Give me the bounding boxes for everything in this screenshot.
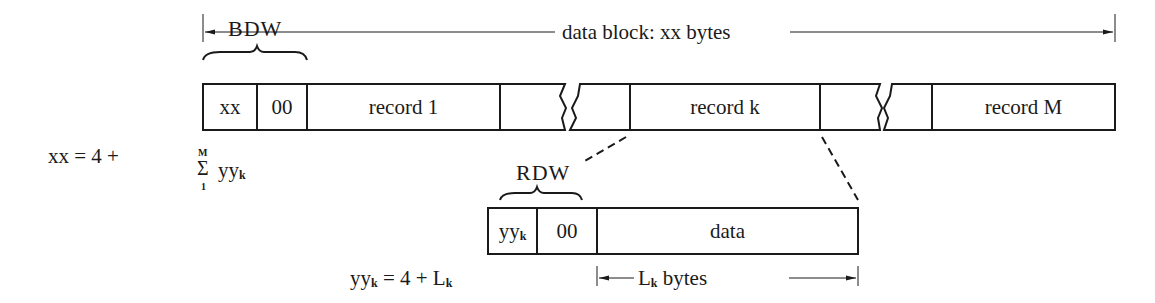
record-00-cell: 00	[537, 221, 597, 242]
block-length-formula-lhs: xx = 4 +	[48, 146, 119, 167]
lk-subscript: k	[651, 276, 658, 290]
record-formula-rhs-subscript: k	[446, 276, 453, 290]
record-k-cell: record k	[630, 97, 820, 118]
diagram-lines	[0, 0, 1155, 303]
record-1-cell: record 1	[307, 97, 500, 118]
record-formula-lhs: yy	[350, 266, 371, 290]
record-formula-mid: = 4 + L	[378, 266, 446, 290]
block-00-cell: 00	[257, 97, 307, 118]
sum-sigma: Σ	[197, 158, 209, 178]
record-yy-cell: yyk	[488, 221, 537, 242]
rdw-label: RDW	[516, 162, 570, 184]
record-data-dimension-label: Lk bytes	[638, 268, 707, 289]
record-data-cell: data	[597, 221, 858, 242]
record-length-formula: yyk = 4 + Lk	[350, 268, 452, 289]
sum-term: yyk	[218, 160, 246, 181]
lk-suffix: bytes	[658, 266, 708, 290]
lk-base: L	[638, 266, 651, 290]
record-m-cell: record M	[932, 97, 1115, 118]
record-yy-subscript: k	[520, 229, 527, 243]
block-xx-cell: xx	[203, 97, 257, 118]
data-block-dimension-label: data block: xx bytes	[562, 22, 731, 43]
sum-term-base: yy	[218, 158, 239, 182]
record-yy-base: yy	[499, 219, 520, 243]
sum-term-subscript: k	[239, 168, 246, 182]
bdw-label: BDW	[228, 18, 282, 40]
record-formula-lhs-subscript: k	[371, 276, 378, 290]
sum-lower-limit: 1	[201, 182, 206, 192]
